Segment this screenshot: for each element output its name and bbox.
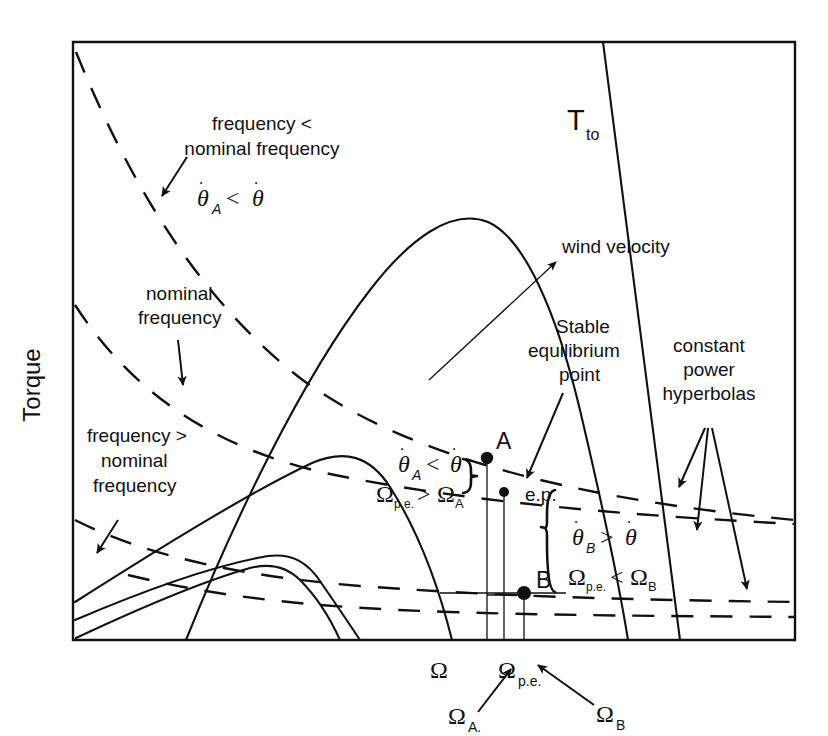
label-t-to-main: T	[567, 104, 585, 136]
label-frequency-less-line2: nominal frequency	[184, 138, 340, 159]
label-stable-line1: Stable	[556, 316, 610, 337]
label-nominal-frequency-line1: nominal	[146, 283, 213, 304]
svg-text:B: B	[648, 579, 657, 594]
svg-text:Ω: Ω	[498, 657, 516, 683]
label-brace-b-theta: θ · B > θ ·	[572, 512, 637, 556]
svg-text:·: ·	[198, 173, 204, 192]
svg-text:Ω: Ω	[437, 481, 455, 507]
svg-text:<: <	[610, 564, 624, 590]
label-brace-a-omega: Ω p.e. > Ω A	[376, 481, 464, 511]
svg-text:·: ·	[399, 439, 405, 458]
label-frequency-greater-line1: frequency >	[87, 425, 187, 446]
svg-text:>: >	[600, 524, 614, 550]
svg-text:Ω: Ω	[430, 657, 448, 683]
x-tick-omega-a: Ω A.	[448, 703, 481, 735]
x-tick-omega-pe: Ω p.e.	[498, 657, 541, 689]
label-hyperbolas-line2: power	[683, 359, 735, 380]
svg-text:>: >	[417, 481, 431, 507]
label-t-to: T to	[567, 104, 599, 143]
svg-text:·: ·	[573, 512, 579, 531]
label-point-b: B	[536, 567, 551, 593]
svg-text:A.: A.	[468, 719, 481, 735]
label-nominal-frequency-line2: frequency	[138, 307, 222, 328]
label-frequency-greater-line2: nominal	[101, 450, 168, 471]
svg-text:·: ·	[451, 439, 457, 458]
svg-text:p.e.: p.e.	[394, 497, 414, 511]
label-stable-line3: point	[559, 364, 601, 385]
label-t-to-sub: to	[586, 126, 599, 143]
svg-text:<: <	[426, 451, 440, 477]
svg-text:A: A	[455, 496, 464, 511]
diagram-labels: Torque frequency < nominal frequency θ ·…	[0, 0, 828, 736]
label-wind-velocity: wind velocity	[561, 236, 670, 257]
label-frequency-less-line1: frequency <	[212, 113, 312, 134]
label-hyperbolas-line3: hyperbolas	[663, 383, 756, 404]
svg-text:Ω: Ω	[568, 564, 586, 590]
svg-text:<: <	[226, 185, 240, 211]
label-point-a: A	[496, 428, 512, 454]
svg-text:p.e.: p.e.	[518, 673, 541, 689]
svg-text:A: A	[211, 201, 221, 217]
label-stable-line2: equilibrium	[528, 340, 620, 361]
svg-text:·: ·	[626, 512, 632, 531]
svg-text:Ω: Ω	[376, 481, 394, 507]
svg-text:p.e.: p.e.	[586, 580, 606, 594]
svg-text:Ω: Ω	[448, 703, 466, 729]
figure-root: Torque frequency < nominal frequency θ ·…	[0, 0, 828, 736]
label-frequency-greater-line3: frequency	[93, 475, 177, 496]
y-axis-title: Torque	[18, 348, 45, 421]
svg-text:·: ·	[253, 173, 259, 192]
x-tick-omega-b: Ω B	[596, 701, 625, 733]
label-point-ep: e.p.	[525, 484, 557, 505]
svg-text:Ω: Ω	[630, 564, 648, 590]
svg-text:Ω: Ω	[596, 701, 614, 727]
label-brace-b-omega: Ω p.e. < Ω B	[568, 564, 657, 594]
svg-text:B: B	[586, 540, 595, 556]
label-hyperbolas-line1: constant	[673, 335, 746, 356]
x-tick-omega: Ω	[430, 657, 448, 683]
label-brace-a-theta: θ · A < θ ·	[398, 439, 462, 483]
svg-text:B: B	[616, 717, 625, 733]
label-theta-a-lt-theta: θ · A < θ ·	[197, 173, 264, 217]
